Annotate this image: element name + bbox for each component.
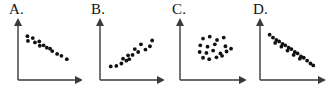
- scatterplot-figure: A. B.: [0, 0, 327, 93]
- data-point: [305, 59, 309, 63]
- data-point: [37, 40, 41, 44]
- panel-d: D.: [245, 0, 327, 93]
- data-point: [302, 56, 306, 60]
- data-point: [139, 42, 143, 46]
- panel-b-axes: [100, 25, 158, 80]
- panel-a: A.: [0, 0, 82, 93]
- data-point: [225, 50, 229, 54]
- panel-d-plot: [245, 0, 327, 93]
- data-point: [290, 47, 294, 51]
- data-point: [222, 36, 226, 40]
- data-point: [207, 57, 211, 61]
- data-point: [33, 41, 37, 45]
- data-point: [229, 47, 233, 51]
- panel-a-points: [26, 34, 69, 61]
- data-point: [38, 44, 42, 48]
- data-point: [286, 49, 290, 53]
- panel-a-axes: [18, 25, 76, 80]
- data-point: [114, 64, 118, 68]
- data-point: [215, 38, 219, 42]
- panel-c-axes: [180, 25, 240, 80]
- data-point: [121, 57, 125, 61]
- data-point: [148, 44, 152, 48]
- data-point: [298, 57, 302, 61]
- data-point: [26, 34, 30, 38]
- data-point: [126, 53, 130, 57]
- data-point: [136, 50, 140, 54]
- panel-c-plot: [164, 0, 246, 93]
- panel-b: B.: [82, 0, 164, 93]
- data-point: [201, 37, 205, 41]
- data-point: [42, 43, 46, 47]
- data-point: [208, 35, 212, 39]
- data-point: [201, 56, 205, 60]
- data-point: [283, 43, 287, 47]
- data-point: [268, 33, 272, 37]
- panel-a-plot: [0, 0, 82, 93]
- data-point: [131, 53, 135, 57]
- panel-b-points: [109, 39, 154, 69]
- data-point: [277, 40, 281, 44]
- data-point: [215, 55, 219, 59]
- data-point: [279, 45, 283, 49]
- data-point: [273, 41, 277, 45]
- data-point: [198, 50, 202, 54]
- data-point: [127, 57, 131, 61]
- data-point: [31, 36, 35, 40]
- data-point: [26, 39, 30, 43]
- data-point: [198, 43, 202, 47]
- data-point: [55, 52, 59, 56]
- data-point: [109, 65, 113, 69]
- panel-c: C.: [164, 0, 246, 93]
- data-point: [296, 52, 300, 56]
- data-point: [220, 54, 224, 58]
- data-point: [45, 46, 49, 50]
- data-point: [150, 39, 154, 43]
- data-point: [206, 45, 210, 49]
- data-point: [144, 48, 148, 52]
- panel-d-points: [268, 33, 315, 68]
- data-point: [119, 62, 123, 66]
- panel-b-plot: [82, 0, 164, 93]
- data-point: [311, 64, 315, 68]
- data-point: [211, 49, 215, 53]
- data-point: [271, 36, 275, 40]
- data-point: [292, 53, 296, 57]
- data-point: [65, 57, 69, 61]
- panel-c-points: [198, 35, 233, 61]
- data-point: [205, 51, 209, 55]
- data-point: [133, 47, 137, 51]
- data-point: [224, 44, 228, 48]
- data-point: [50, 49, 54, 53]
- data-point: [213, 42, 217, 46]
- data-point: [60, 54, 64, 58]
